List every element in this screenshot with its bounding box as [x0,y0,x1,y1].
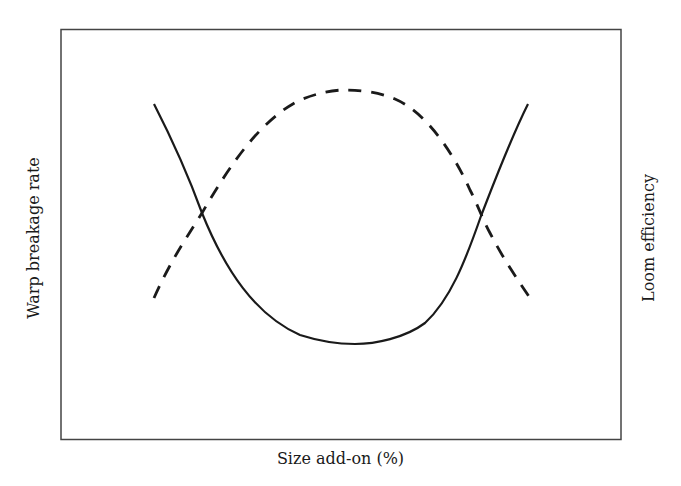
warp-breakage-curve [154,104,528,344]
plot-frame [61,30,621,440]
x-axis-label: Size add-on (%) [277,449,404,468]
x-axis-label-container: Size add-on (%) [0,449,681,468]
loom-efficiency-curve [154,90,530,298]
y-axis-left-label: Warp breakage rate [24,157,43,319]
chart-canvas [0,0,681,486]
y-axis-right-label: Loom efficiency [639,174,658,302]
